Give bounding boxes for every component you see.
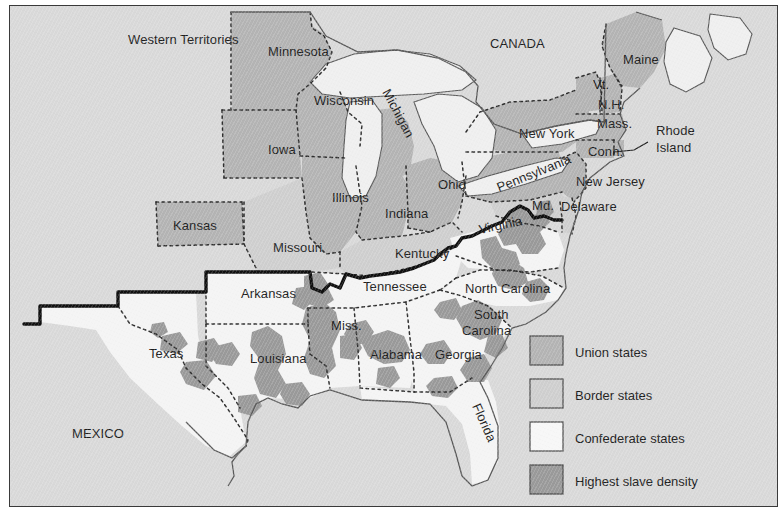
region-label-rhode-island: Rhode bbox=[656, 123, 695, 138]
legend-swatch-border-states bbox=[530, 379, 563, 408]
region-label-north-carolina: North Carolina bbox=[465, 281, 551, 296]
legend-label-border-states: Border states bbox=[575, 388, 653, 403]
region-label-minnesota: Minnesota bbox=[268, 44, 330, 59]
region-label-delaware: Delaware bbox=[561, 199, 617, 214]
legend-label-highest-slave-density: Highest slave density bbox=[575, 474, 698, 489]
region-label-vermont: Vt. bbox=[593, 77, 609, 92]
region-label-kansas: Kansas bbox=[173, 218, 217, 233]
region-label-new-hampshire: N.H. bbox=[598, 97, 624, 112]
region-label-mississippi: Miss. bbox=[331, 318, 362, 333]
legend-label-confederate-states: Confederate states bbox=[575, 431, 685, 446]
map-frame: Western TerritoriesCANADAMEXICOMinnesota… bbox=[9, 5, 778, 507]
region-label-rhode-island-2: Island bbox=[656, 140, 691, 155]
region-label-iowa: Iowa bbox=[268, 142, 297, 157]
region-label-wisconsin: Wisconsin bbox=[314, 93, 374, 108]
region-label-louisiana: Louisiana bbox=[250, 351, 307, 366]
region-label-south-carolina: South bbox=[474, 307, 508, 322]
map-canvas: Western TerritoriesCANADAMEXICOMinnesota… bbox=[10, 6, 776, 505]
region-label-georgia: Georgia bbox=[435, 347, 483, 362]
region-label-new-york: New York bbox=[519, 126, 575, 141]
region-label-kentucky: Kentucky bbox=[395, 246, 450, 261]
legend-swatch-union-states bbox=[530, 336, 563, 365]
region-label-tennessee: Tennessee bbox=[363, 279, 427, 294]
map-page: Western TerritoriesCANADAMEXICOMinnesota… bbox=[0, 0, 780, 519]
legend-swatch-highest-slave-density bbox=[530, 465, 563, 494]
legend-swatch-confederate-states bbox=[530, 422, 563, 451]
region-label-arkansas: Arkansas bbox=[241, 286, 296, 301]
region-label-canada: CANADA bbox=[490, 36, 545, 51]
region-label-indiana: Indiana bbox=[385, 206, 429, 221]
region-label-western-territories: Western Territories bbox=[128, 32, 239, 47]
region-label-mexico: MEXICO bbox=[72, 426, 124, 441]
region-label-maryland: Md. bbox=[532, 198, 554, 213]
legend-label-union-states: Union states bbox=[575, 345, 648, 360]
region-label-alabama: Alabama bbox=[370, 347, 423, 362]
region-label-massachusetts: Mass. bbox=[597, 116, 632, 131]
region-label-ohio: Ohio bbox=[438, 177, 466, 192]
region-label-illinois: Illinois bbox=[332, 190, 369, 205]
region-label-missouri: Missouri bbox=[273, 240, 322, 255]
region-label-maine: Maine bbox=[623, 52, 659, 67]
region-label-new-jersey: New Jersey bbox=[576, 174, 645, 189]
region-label-connecticut: Conn. bbox=[588, 144, 623, 159]
region-label-south-carolina-2: Carolina bbox=[462, 323, 512, 338]
region-label-texas: Texas bbox=[149, 346, 184, 361]
